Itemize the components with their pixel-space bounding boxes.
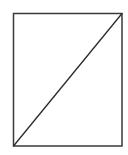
diagonal-line: [14, 14, 123, 147]
diagram-canvas: [0, 0, 128, 155]
